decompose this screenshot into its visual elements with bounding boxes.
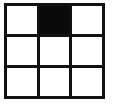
cell-bottom-right — [72, 68, 102, 96]
cell-bottom-center — [40, 68, 70, 96]
cell-middle-center — [40, 37, 70, 65]
cell-middle-left — [7, 37, 37, 65]
cell-top-center — [40, 6, 70, 34]
cell-bottom-left — [7, 68, 37, 96]
cell-top-right — [72, 6, 102, 34]
cell-top-left — [7, 6, 37, 34]
three-by-three-grid — [4, 3, 105, 99]
cell-middle-right — [72, 37, 102, 65]
